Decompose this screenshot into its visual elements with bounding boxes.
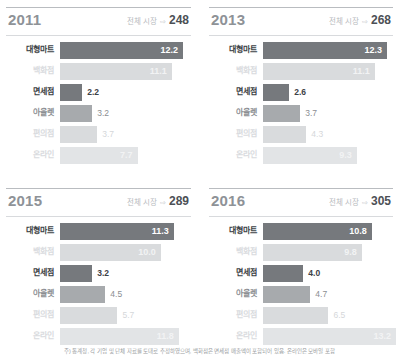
category-label: 온라인 <box>6 151 60 159</box>
bar <box>60 286 105 303</box>
chart-grid: 2011전체 시장⇨248대형마트12.2백화점11.1면세점2.2아울렛3.2… <box>0 0 399 363</box>
category-label: 백화점 <box>209 67 263 75</box>
total-market-group: 전체 시장⇨289 <box>127 194 189 208</box>
bar-value: 3.2 <box>92 269 109 278</box>
category-label: 아울렛 <box>6 290 60 298</box>
bar-track: 10.8 <box>263 223 393 240</box>
bar-value: 4.5 <box>105 290 122 299</box>
bar-row: 편의점5.7 <box>6 305 191 325</box>
category-label: 아울렛 <box>209 290 263 298</box>
bar: 13.2 <box>263 328 396 345</box>
bar-track: 12.2 <box>60 42 191 59</box>
bar-value: 10.8 <box>349 227 372 236</box>
bar-track: 4.5 <box>60 286 191 303</box>
bar-row: 면세점2.6 <box>209 82 393 102</box>
category-label: 아울렛 <box>6 109 60 117</box>
bar-value: 11.1 <box>353 67 375 76</box>
category-label: 편의점 <box>6 311 60 319</box>
bar-track: 4.3 <box>263 126 393 143</box>
bar: 9.3 <box>263 147 357 164</box>
bar-track: 11.1 <box>263 63 393 80</box>
bar-row: 온라인9.3 <box>209 145 393 165</box>
bar <box>263 126 306 143</box>
bar-value: 3.2 <box>92 109 109 118</box>
bar-track: 11.8 <box>60 328 191 345</box>
bar-value: 4.7 <box>310 290 327 299</box>
bar-rows: 대형마트12.3백화점11.1면세점2.6아울렛3.7편의점4.3온라인9.3 <box>209 40 393 165</box>
bar: 11.1 <box>263 63 375 80</box>
bar-row: 온라인7.7 <box>6 145 191 165</box>
year-label: 2015 <box>8 193 42 208</box>
bar-row: 온라인11.8 <box>6 326 191 346</box>
category-label: 온라인 <box>6 332 60 340</box>
bar-track: 5.7 <box>60 307 191 324</box>
panel-divider-rule <box>6 216 191 217</box>
bar-row: 면세점3.2 <box>6 263 191 283</box>
category-label: 대형마트 <box>209 46 263 54</box>
bar: 7.7 <box>60 147 138 164</box>
bar-value: 2.2 <box>82 88 99 97</box>
total-market-value: 289 <box>169 194 189 208</box>
category-label: 면세점 <box>209 88 263 96</box>
total-market-label: 전체 시장 <box>127 196 157 207</box>
bar-row: 아울렛3.7 <box>209 103 393 123</box>
bar-row: 편의점4.3 <box>209 124 393 144</box>
year-label: 2013 <box>211 12 245 27</box>
total-market-label: 전체 시장 <box>127 15 157 26</box>
bar <box>263 286 310 303</box>
bar <box>60 105 92 122</box>
total-market-value: 248 <box>169 13 189 27</box>
bar-track: 2.6 <box>263 84 393 101</box>
bar-value: 12.3 <box>364 46 387 55</box>
bar <box>60 126 97 143</box>
panel-divider-rule <box>6 35 191 36</box>
bar-value: 4.0 <box>303 269 320 278</box>
bar-value: 9.3 <box>339 151 357 160</box>
category-label: 아울렛 <box>209 109 263 117</box>
arrow-icon: ⇨ <box>362 199 368 207</box>
total-market-value: 305 <box>371 194 391 208</box>
bar-rows: 대형마트11.3백화점10.0면세점3.2아울렛4.5편의점5.7온라인11.8 <box>6 221 191 346</box>
bar-row: 대형마트12.3 <box>209 40 393 60</box>
total-market-label: 전체 시장 <box>329 196 359 207</box>
bar-track: 3.2 <box>60 105 191 122</box>
bar-value: 4.3 <box>306 130 323 139</box>
footnote: 주) 통계청, 각 기업 및 단체 자료를 토대로 추정하였으며, 백화점은 면… <box>0 345 399 363</box>
bar-value: 9.8 <box>344 248 362 257</box>
bar-value: 5.7 <box>117 311 134 320</box>
bar-row: 편의점3.7 <box>6 124 191 144</box>
year-panel: 2011전체 시장⇨248대형마트12.2백화점11.1면세점2.2아울렛3.2… <box>0 0 199 181</box>
bar-row: 온라인13.2 <box>209 326 393 346</box>
panel-divider-rule <box>209 35 393 36</box>
total-market-value: 268 <box>371 13 391 27</box>
category-label: 백화점 <box>6 67 60 75</box>
category-label: 백화점 <box>209 248 263 256</box>
bar-row: 백화점9.8 <box>209 242 393 262</box>
bar: 10.8 <box>263 223 372 240</box>
bar-row: 면세점4.0 <box>209 263 393 283</box>
bar-rows: 대형마트10.8백화점9.8면세점4.0아울렛4.7편의점6.5온라인13.2 <box>209 221 393 346</box>
bar-row: 대형마트10.8 <box>209 221 393 241</box>
bar: 12.2 <box>60 42 183 59</box>
category-label: 면세점 <box>6 269 60 277</box>
bar-track: 3.7 <box>60 126 191 143</box>
bar-row: 백화점10.0 <box>6 242 191 262</box>
bar <box>60 265 92 282</box>
bar-track: 7.7 <box>60 147 191 164</box>
bar-track: 11.1 <box>60 63 191 80</box>
bar-track: 9.8 <box>263 244 393 261</box>
panel-divider-rule <box>209 216 393 217</box>
bar-track: 2.2 <box>60 84 191 101</box>
bar-value: 11.8 <box>157 332 179 341</box>
total-market-group: 전체 시장⇨248 <box>127 13 189 27</box>
arrow-icon: ⇨ <box>160 199 166 207</box>
bar <box>263 105 300 122</box>
bar-track: 11.3 <box>60 223 191 240</box>
bar: 12.3 <box>263 42 387 59</box>
category-label: 대형마트 <box>6 227 60 235</box>
bar: 9.8 <box>263 244 362 261</box>
category-label: 온라인 <box>209 151 263 159</box>
bar-row: 백화점11.1 <box>6 61 191 81</box>
bar-track: 4.7 <box>263 286 393 303</box>
total-market-group: 전체 시장⇨268 <box>329 13 391 27</box>
